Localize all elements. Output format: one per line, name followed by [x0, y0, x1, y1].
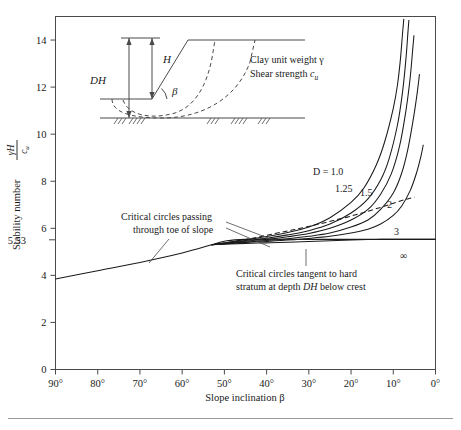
toe-annotation-line2: through toe of slope — [133, 224, 214, 235]
x-tick-label-30°: 30° — [301, 378, 316, 389]
hard-annotation-line1: Critical circles tangent to hard — [236, 268, 357, 279]
y-axis-title: Stability number γH cu — [6, 140, 31, 250]
y-axis-title-text: Stability number — [11, 179, 22, 250]
x-tick-label-80°: 80° — [90, 378, 105, 389]
x-tick-label-10°: 10° — [386, 378, 401, 389]
clay-unit-weight-text: Clay unit weight γ — [250, 54, 324, 65]
x-tick-label-40°: 40° — [259, 378, 274, 389]
y-tick-label-2: 2 — [41, 317, 46, 328]
curve-label-D-2: 2 — [387, 199, 392, 210]
material-properties-note: Clay unit weight γ Shear strength cu — [250, 54, 324, 82]
curve-label-D-3: 3 — [394, 226, 399, 237]
y-tick-label-6: 6 — [41, 223, 46, 234]
y-tick-label-12: 12 — [36, 82, 47, 93]
inset-label-H: H — [162, 53, 172, 65]
y-axis-numerator: γH — [6, 144, 16, 156]
plot-border — [56, 17, 436, 370]
toe-annotation-line1: Critical circles passing — [121, 211, 212, 222]
shear-strength-prefix: Shear strength — [250, 68, 310, 79]
y-tick-label-10: 10 — [36, 129, 47, 140]
hard-annotation-pre: stratum at depth — [236, 281, 303, 292]
hard-annotation-line2: stratum at depth DH below crest — [236, 281, 366, 292]
x-axis-ticks: 90°80°70°60°50°40°30°20°10°0° — [48, 370, 440, 390]
curve-label-D-1.25: 1.25 — [335, 183, 353, 194]
inset-label-beta: β — [171, 85, 178, 97]
y-tick-label-14: 14 — [36, 35, 47, 46]
y-axis-denominator: cu — [19, 146, 31, 154]
bottom-divider-rule — [8, 418, 453, 419]
x-tick-label-20°: 20° — [344, 378, 359, 389]
shear-strength-subscript: u — [314, 73, 318, 82]
plot-frame — [56, 17, 436, 370]
y-tick-label-8: 8 — [41, 176, 46, 187]
x-axis-title: Slope inclination β — [205, 392, 284, 403]
hard-annotation-post: below crest — [317, 281, 366, 292]
hard-annotation-DH: DH — [302, 281, 318, 292]
y-axis-ticks: 02468101214 — [36, 35, 56, 375]
x-tick-label-0°: 0° — [431, 378, 440, 389]
stability-number-chart: 02468101214 90°80°70°60°50°40°30°20°10°0… — [0, 0, 461, 430]
x-tick-label-70°: 70° — [133, 378, 148, 389]
curve-label-D-1.0: D = 1.0 — [313, 166, 343, 177]
x-tick-label-50°: 50° — [217, 378, 232, 389]
curve-label-D-1.5: 1.5 — [360, 187, 373, 198]
y-tick-label-4: 4 — [41, 270, 47, 281]
x-tick-label-90°: 90° — [48, 378, 63, 389]
inset-label-DH: DH — [89, 74, 107, 86]
curve-label-D-infinity: ∞ — [400, 250, 407, 261]
y-tick-label-0: 0 — [41, 364, 46, 375]
figure-container: 02468101214 90°80°70°60°50°40°30°20°10°0… — [0, 0, 461, 430]
y-axis-fraction: γH cu — [6, 140, 31, 160]
x-tick-label-60°: 60° — [175, 378, 190, 389]
